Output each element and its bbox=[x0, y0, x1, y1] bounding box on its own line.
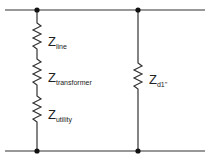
label-z-line: Zline bbox=[48, 35, 67, 50]
left-branch-wire bbox=[33, 10, 41, 151]
right-branch-wire bbox=[134, 10, 142, 151]
circuit-diagram bbox=[0, 0, 210, 161]
label-z-transformer: Ztransformer bbox=[48, 71, 92, 86]
label-z-utility: Zutility bbox=[48, 108, 72, 123]
label-z-d1: Zd1'' bbox=[149, 73, 167, 88]
node-top-left bbox=[34, 7, 39, 12]
node-top-right bbox=[135, 7, 140, 12]
node-bottom-left bbox=[34, 148, 39, 153]
node-bottom-right bbox=[135, 148, 140, 153]
